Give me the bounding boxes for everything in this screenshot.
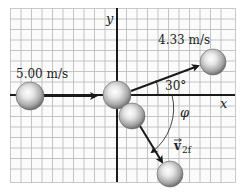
collision-ball-2: [119, 103, 145, 129]
angle-30-label: 30°: [165, 79, 186, 93]
outgoing-ball-2: [157, 161, 183, 187]
collision-diagram: y x 5.00 m/s 4.33 m/s 30° φ v 2f: [0, 0, 246, 195]
velocity-2f-subscript: 2f: [182, 145, 192, 155]
outgoing-speed-1-label: 4.33 m/s: [158, 33, 210, 47]
incoming-ball: [16, 82, 44, 110]
incoming-speed-label: 5.00 m/s: [16, 67, 68, 81]
x-axis-label: x: [220, 96, 228, 111]
outgoing-ball-1: [200, 49, 226, 75]
angle-phi-label: φ: [180, 105, 190, 120]
velocity-2f-symbol: v: [173, 139, 182, 153]
y-axis-label: y: [105, 11, 114, 26]
